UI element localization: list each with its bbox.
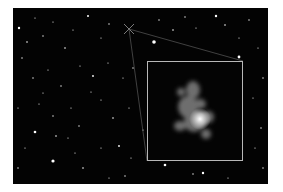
- star-field-photo: [13, 8, 268, 184]
- galaxy-inset: [147, 61, 243, 161]
- galaxy-blob: [148, 62, 243, 161]
